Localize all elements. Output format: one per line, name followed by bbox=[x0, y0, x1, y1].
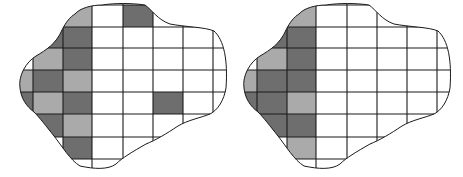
light-cell bbox=[63, 70, 92, 92]
dark-cell bbox=[63, 92, 92, 114]
dark-cell bbox=[33, 70, 63, 92]
dark-cell bbox=[257, 70, 287, 92]
dark-cell bbox=[63, 27, 92, 48]
light-cell bbox=[63, 5, 92, 27]
light-cell bbox=[33, 48, 63, 70]
dark-cell bbox=[287, 114, 316, 137]
dark-cell bbox=[287, 27, 316, 48]
left-panel bbox=[0, 0, 240, 177]
right-panel bbox=[224, 0, 463, 177]
light-cell bbox=[287, 5, 316, 27]
dark-cell bbox=[257, 92, 287, 114]
dark-cell bbox=[153, 92, 183, 114]
grid-blob-diagram bbox=[0, 0, 463, 177]
dark-cell bbox=[257, 114, 287, 137]
light-cell bbox=[63, 114, 92, 137]
dark-cell bbox=[287, 48, 316, 70]
light-cell bbox=[33, 92, 63, 114]
dark-cell bbox=[63, 137, 92, 159]
diagram-stage bbox=[0, 0, 463, 177]
light-cell bbox=[287, 92, 316, 114]
dark-cell bbox=[63, 48, 92, 70]
light-cell bbox=[287, 137, 316, 159]
dark-cell bbox=[287, 70, 316, 92]
dark-cell bbox=[33, 114, 63, 137]
light-cell bbox=[257, 48, 287, 70]
